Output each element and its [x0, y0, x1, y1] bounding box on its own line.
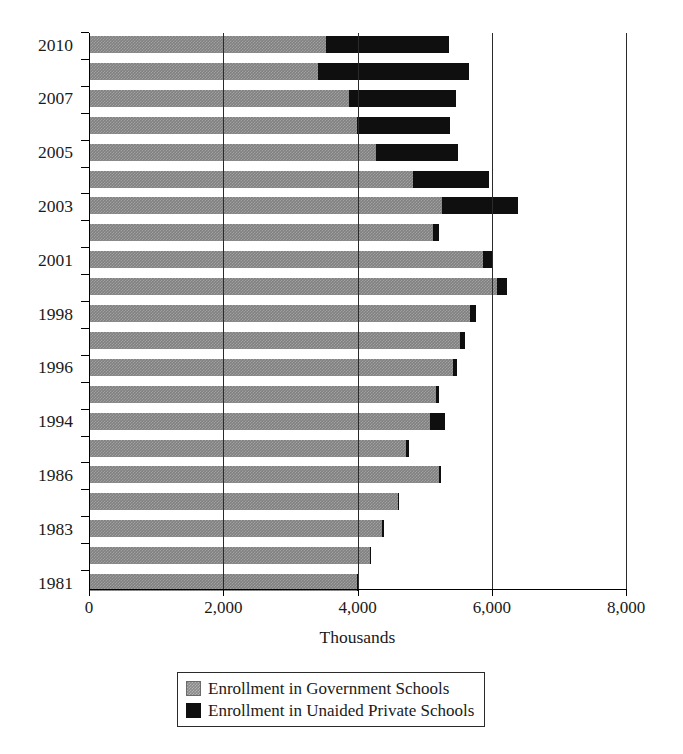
x-axis-tick-label: 0	[85, 598, 94, 618]
gridline	[492, 33, 493, 589]
bar-segment-private	[376, 144, 459, 161]
y-axis-tick-label: 1986	[38, 465, 73, 485]
x-axis-tick	[358, 589, 359, 596]
y-axis-tick	[81, 140, 89, 141]
enrollment-stacked-bar-chart: 2010200720052003200119981996199419861983…	[0, 0, 683, 754]
y-axis-tick	[81, 247, 89, 248]
y-axis-tick	[81, 59, 89, 60]
y-axis-tick	[81, 382, 89, 383]
bar-segment-private	[470, 305, 475, 322]
bar-segment-government	[89, 547, 370, 564]
y-axis-tick-label: 1996	[38, 357, 73, 377]
gridline	[358, 33, 359, 589]
bar-segment-government	[89, 171, 413, 188]
y-axis-tick	[81, 543, 89, 544]
x-axis-tick-label: 6,000	[473, 598, 511, 618]
bar-segment-government	[89, 466, 439, 483]
bar-segment-private	[413, 171, 489, 188]
y-axis-tick-label: 2003	[38, 196, 73, 216]
bar-segment-private	[497, 278, 506, 295]
y-axis-tick-label: 2001	[38, 250, 73, 270]
y-axis-tick-label: 2010	[38, 35, 73, 55]
y-axis-tick	[81, 220, 89, 221]
bar-segment-government	[89, 278, 497, 295]
legend-item-private: Enrollment in Unaided Private Schools	[186, 699, 474, 721]
bar-segment-government	[89, 520, 382, 537]
bar-segment-private	[442, 197, 518, 214]
bar-segment-private	[436, 386, 439, 403]
x-axis-tick	[626, 589, 627, 596]
y-axis-tick	[81, 32, 89, 33]
bar-segment-private	[326, 36, 449, 53]
y-axis-tick	[81, 570, 89, 571]
bar-segment-private	[370, 547, 371, 564]
bar-segment-government	[89, 36, 326, 53]
bar-segment-private	[382, 520, 383, 537]
y-axis-tick	[81, 516, 89, 517]
bar-segment-government	[89, 493, 398, 510]
bar-segment-government	[89, 413, 430, 430]
gridline	[223, 33, 224, 589]
bar-segment-government	[89, 144, 376, 161]
bar-segment-government	[89, 386, 436, 403]
y-axis-tick-label: 1998	[38, 304, 73, 324]
y-axis-tick	[81, 193, 89, 194]
y-axis-tick	[81, 167, 89, 168]
y-axis-tick-label: 2007	[38, 88, 73, 108]
bar-segment-private	[398, 493, 399, 510]
x-axis-tick-label: 2,000	[204, 598, 242, 618]
y-axis-tick	[81, 409, 89, 410]
x-axis-tick	[89, 589, 90, 596]
y-axis-tick	[81, 489, 89, 490]
y-axis-tick	[81, 274, 89, 275]
bar-segment-private	[483, 251, 492, 268]
y-axis-tick	[81, 355, 89, 356]
legend-label-government: Enrollment in Government Schools	[208, 679, 449, 698]
bar-segment-private	[318, 63, 469, 80]
chart-legend: Enrollment in Government Schools Enrollm…	[177, 672, 485, 727]
y-axis-tick	[81, 328, 89, 329]
x-axis-tick-label: 8,000	[607, 598, 645, 618]
bar-segment-private	[439, 466, 441, 483]
bar-segment-government	[89, 197, 442, 214]
bar-segment-government	[89, 251, 483, 268]
bar-segment-private	[433, 224, 439, 241]
y-axis-tick-label: 2005	[38, 142, 73, 162]
y-axis-tick	[81, 462, 89, 463]
y-axis-line	[89, 33, 90, 589]
bar-segment-government	[89, 90, 349, 107]
legend-label-private: Enrollment in Unaided Private Schools	[208, 701, 474, 720]
bar-segment-private	[460, 332, 465, 349]
y-axis-tick-label: 1983	[38, 519, 73, 539]
y-axis-tick-label: 1994	[38, 411, 73, 431]
y-axis-tick	[81, 301, 89, 302]
bar-segment-private	[357, 117, 450, 134]
bar-segment-government	[89, 332, 460, 349]
y-axis-tick-labels: 2010200720052003200119981996199419861983…	[0, 0, 81, 754]
legend-item-government: Enrollment in Government Schools	[186, 677, 474, 699]
gray-hatched-swatch	[186, 681, 201, 696]
black-swatch	[186, 703, 201, 718]
bar-segment-private	[453, 359, 456, 376]
x-axis-tick	[223, 589, 224, 596]
y-axis-tick-label: 1981	[38, 573, 73, 593]
x-axis-title: Thousands	[89, 627, 626, 648]
bar-segment-government	[89, 359, 453, 376]
bar-segment-government	[89, 305, 470, 322]
bar-segment-private	[406, 440, 409, 457]
bar-segment-government	[89, 63, 318, 80]
x-axis-tick	[492, 589, 493, 596]
gridline	[626, 33, 627, 589]
bar-segment-private	[430, 413, 445, 430]
y-axis-tick	[81, 113, 89, 114]
y-axis-tick	[81, 86, 89, 87]
bar-segment-private	[349, 90, 456, 107]
x-axis-tick-label: 4,000	[338, 598, 376, 618]
y-axis-tick	[81, 436, 89, 437]
bar-segment-government	[89, 224, 433, 241]
